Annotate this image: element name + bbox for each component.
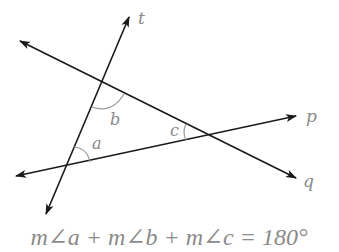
angle-label-a: a <box>92 134 102 153</box>
angle-c-arc <box>184 124 186 140</box>
angle-b-arc <box>92 94 124 109</box>
line-label-t: t <box>138 8 145 28</box>
line-q <box>20 41 296 178</box>
angle-sum-equation: m∠a + m∠b + m∠c = 180° <box>30 224 308 250</box>
angle-label-c: c <box>170 121 179 140</box>
line-p <box>16 116 296 176</box>
line-label-q: q <box>303 171 314 191</box>
angle-label-b: b <box>110 110 120 129</box>
triangle-angle-sum-diagram: t p q a b c m∠a + m∠b + m∠c = 180° <box>0 0 339 252</box>
angle-a-arc <box>74 147 90 162</box>
line-label-p: p <box>306 106 317 126</box>
